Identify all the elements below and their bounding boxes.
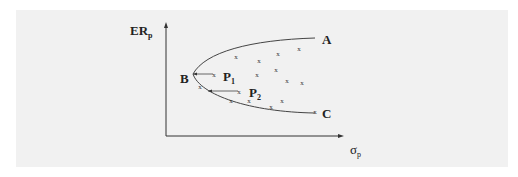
x-axis-arrow-icon [338,134,344,138]
portfolio-marker: x [276,50,280,58]
portfolio-marker: x [212,71,216,79]
portfolio-marker: x [300,79,304,87]
point-label-p2: P2 [249,86,261,102]
portfolio-marker: x [285,77,289,85]
x-axis-label: σp [350,143,361,159]
portfolio-marker: x [269,103,273,111]
portfolio-marker: x [280,97,284,105]
portfolio-marker: x [297,45,301,53]
portfolio-marker: x [313,108,317,116]
portfolio-marker: x [198,83,202,91]
y-axis-arrow-icon [164,22,168,28]
portfolio-markers: xxxxxxxxxxxxxxxx [198,45,317,116]
portfolio-marker: x [274,66,278,74]
portfolio-marker: x [237,88,241,96]
point-label-a: A [322,33,331,46]
portfolio-marker: x [234,53,238,61]
portfolio-marker: x [255,71,259,79]
point-label-c: C [322,107,331,120]
point-label-p1: P1 [223,70,235,86]
portfolio-marker: x [229,97,233,105]
y-axis-label: ERp [130,24,153,40]
point-label-b: B [180,72,189,85]
portfolio-marker: x [257,57,261,65]
